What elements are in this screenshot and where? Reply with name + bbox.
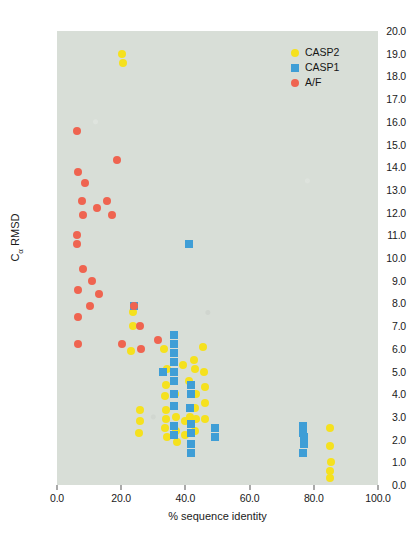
data-point-casp2	[200, 368, 208, 376]
data-point-casp1	[211, 424, 219, 432]
y-tick-label: 2.0	[361, 434, 406, 446]
y-tick-mark	[52, 212, 57, 213]
data-point-casp1	[170, 377, 178, 385]
y-tick-mark	[52, 416, 57, 417]
x-tick-mark	[249, 485, 250, 490]
data-point-a-f	[113, 156, 121, 164]
y-tick-label: 15.0	[361, 139, 406, 151]
data-point-a-f	[74, 168, 82, 176]
legend-item-casp1[interactable]: CASP1	[291, 61, 339, 74]
data-point-a-f	[73, 240, 81, 248]
data-point-casp2	[201, 415, 209, 423]
data-point-casp1	[170, 331, 178, 339]
legend-item-a-f[interactable]: A/F	[291, 76, 339, 89]
legend-swatch-circle-icon	[291, 49, 299, 57]
x-tick-label: 80.0	[284, 492, 344, 504]
data-point-casp2	[172, 413, 180, 421]
y-tick-label: 17.0	[361, 93, 406, 105]
y-tick-mark	[52, 439, 57, 440]
y-tick-label: 9.0	[361, 275, 406, 287]
data-point-a-f	[95, 290, 103, 298]
x-tick-mark	[121, 485, 122, 490]
data-point-a-f	[118, 340, 126, 348]
y-tick-label: 0.0	[361, 479, 406, 491]
y-tick-label: 6.0	[361, 343, 406, 355]
y-axis-subscript: α	[16, 249, 25, 254]
x-tick-mark	[57, 485, 58, 490]
legend-label: A/F	[305, 77, 321, 88]
scatter-plot-area	[57, 31, 378, 485]
data-point-casp1	[187, 440, 195, 448]
x-tick-mark	[313, 485, 314, 490]
data-point-casp2	[136, 417, 144, 425]
data-point-casp1	[187, 381, 195, 389]
data-point-casp1	[186, 404, 194, 412]
plot-background-texture	[57, 31, 378, 485]
y-tick-label: 11.0	[361, 229, 406, 241]
data-point-casp1	[300, 440, 308, 448]
y-tick-mark	[52, 189, 57, 190]
data-point-casp2	[199, 343, 207, 351]
data-point-casp2	[326, 424, 334, 432]
data-point-a-f	[154, 336, 162, 344]
y-tick-mark	[52, 303, 57, 304]
data-point-casp1	[170, 422, 178, 430]
data-point-a-f	[103, 197, 111, 205]
data-point-a-f	[130, 302, 138, 310]
data-point-casp2	[161, 392, 169, 400]
y-tick-mark	[52, 76, 57, 77]
legend-label: CASP1	[305, 62, 339, 73]
y-tick-label: 18.0	[361, 70, 406, 82]
y-tick-label: 19.0	[361, 48, 406, 60]
data-point-casp2	[129, 308, 137, 316]
data-point-a-f	[74, 286, 82, 294]
data-point-casp2	[160, 345, 168, 353]
data-point-casp2	[173, 438, 181, 446]
x-tick-label: 60.0	[220, 492, 280, 504]
y-tick-mark	[52, 348, 57, 349]
data-point-a-f	[88, 277, 96, 285]
data-point-casp1	[159, 368, 167, 376]
data-point-casp2	[327, 458, 335, 466]
data-point-a-f	[86, 302, 94, 310]
data-point-a-f	[74, 313, 82, 321]
data-point-casp2	[127, 347, 135, 355]
chart-legend: CASP2CASP1A/F	[291, 46, 339, 89]
data-point-casp1	[170, 390, 178, 398]
data-point-casp1	[170, 402, 178, 410]
data-point-a-f	[93, 204, 101, 212]
y-tick-label: 20.0	[361, 25, 406, 37]
y-tick-label: 10.0	[361, 252, 406, 264]
legend-item-casp2[interactable]: CASP2	[291, 46, 339, 59]
legend-swatch-circle-icon	[291, 79, 299, 87]
data-point-casp1	[170, 358, 178, 366]
data-point-a-f	[108, 211, 116, 219]
y-tick-label: 13.0	[361, 184, 406, 196]
data-point-a-f	[137, 345, 145, 353]
y-tick-mark	[52, 121, 57, 122]
y-tick-mark	[52, 235, 57, 236]
y-tick-mark	[52, 258, 57, 259]
y-axis-title: Cα RMSD	[9, 178, 24, 298]
data-point-a-f	[79, 211, 87, 219]
y-tick-label: 14.0	[361, 161, 406, 173]
data-point-a-f	[73, 127, 81, 135]
data-point-casp1	[187, 390, 195, 398]
data-point-a-f	[136, 322, 144, 330]
data-point-casp2	[191, 365, 199, 373]
data-point-casp1	[170, 431, 178, 439]
data-point-casp1	[187, 449, 195, 457]
data-point-casp1	[170, 349, 178, 357]
y-tick-label: 8.0	[361, 297, 406, 309]
y-tick-mark	[52, 99, 57, 100]
y-tick-mark	[52, 462, 57, 463]
data-point-casp1	[211, 433, 219, 441]
data-point-casp2	[326, 474, 334, 482]
data-point-casp1	[187, 429, 195, 437]
y-tick-label: 3.0	[361, 411, 406, 423]
data-point-a-f	[79, 265, 87, 273]
x-axis-title: % sequence identity	[57, 510, 378, 522]
y-tick-mark	[52, 53, 57, 54]
legend-label: CASP2	[305, 47, 339, 58]
x-tick-mark	[185, 485, 186, 490]
